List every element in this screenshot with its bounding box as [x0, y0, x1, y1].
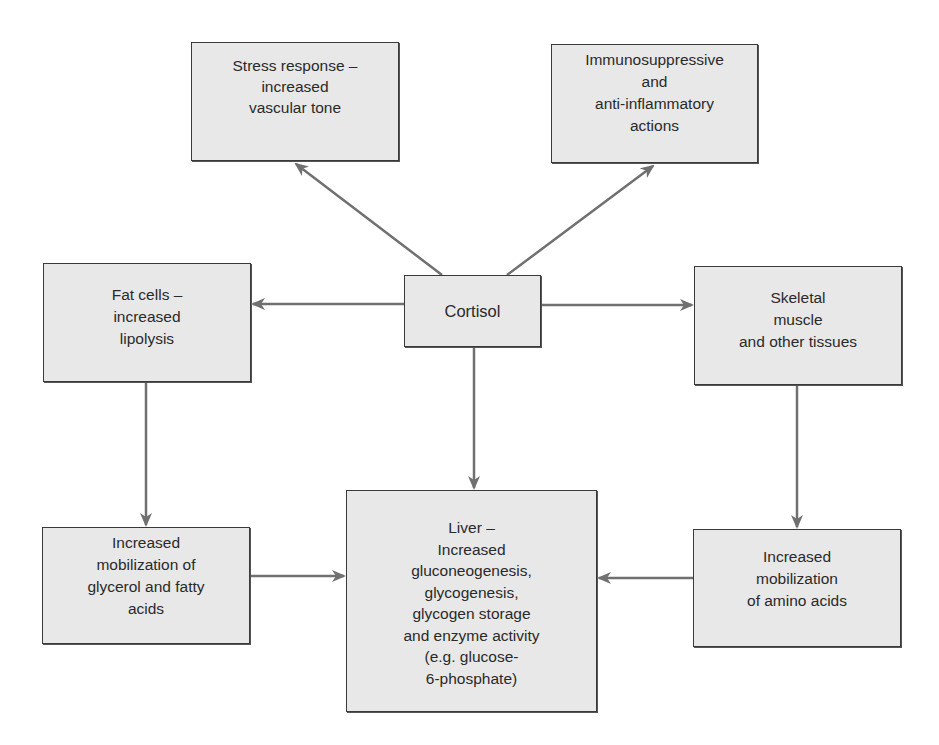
- node-liver: Liver – Increased gluconeogenesis, glyco…: [346, 490, 597, 712]
- node-label: Liver – Increased gluconeogenesis, glyco…: [397, 517, 545, 689]
- node-stress-response: Stress response – increased vascular ton…: [191, 42, 399, 161]
- node-label: Fat cells – increased lipolysis: [106, 284, 189, 350]
- node-amino-acids: Increased mobilization of amino acids: [693, 529, 901, 647]
- node-immunosuppressive: Immunosuppressive and anti-inflammatory …: [551, 44, 758, 163]
- node-skeletal-muscle: Skeletal muscle and other tissues: [694, 266, 902, 385]
- node-label: Increased mobilization of amino acids: [741, 546, 853, 612]
- node-cortisol: Cortisol: [404, 275, 541, 347]
- node-label: Skeletal muscle and other tissues: [733, 287, 863, 353]
- arrow-cortisol-to-stress: [296, 164, 442, 275]
- node-glycerol-fatty-acids: Increased mobilization of glycerol and f…: [42, 527, 250, 644]
- node-label: Stress response – increased vascular ton…: [227, 55, 364, 118]
- node-label: Immunosuppressive and anti-inflammatory …: [579, 49, 730, 137]
- node-label: Cortisol: [439, 301, 507, 322]
- node-fat-cells: Fat cells – increased lipolysis: [43, 263, 251, 382]
- node-label: Increased mobilization of glycerol and f…: [81, 532, 210, 620]
- arrow-cortisol-to-immuno: [507, 166, 653, 275]
- cortisol-actions-diagram: Stress response – increased vascular ton…: [0, 0, 939, 745]
